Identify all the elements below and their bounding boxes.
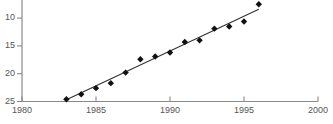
x-axis-label-1995: 1995 (228, 105, 260, 115)
data-point-1988 (137, 56, 143, 62)
data-point-1995 (241, 18, 247, 24)
x-axis-label-1980: 1980 (6, 105, 38, 115)
y-axis-ticks (17, 18, 22, 101)
y-axis-label-20: 15 (0, 40, 15, 50)
data-point-1986 (108, 80, 114, 86)
x-axis-label-1985: 1985 (80, 105, 112, 115)
y-axis-label-15: 20 (0, 68, 15, 78)
data-point-1996 (256, 1, 262, 7)
x-axis-label-2000: 2000 (302, 105, 333, 115)
data-point-1991 (182, 39, 188, 45)
y-axis-label-10: 25 (0, 96, 15, 106)
y-axis-label-25: 10 (0, 12, 15, 22)
x-axis-label-1990: 1990 (154, 105, 186, 115)
data-point-1985 (93, 85, 99, 91)
axes-group (17, 0, 318, 102)
